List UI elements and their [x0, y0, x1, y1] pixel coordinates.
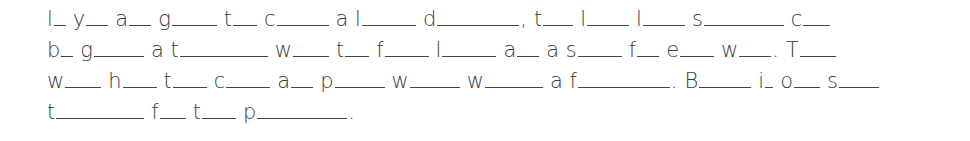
word-token: g	[158, 4, 217, 35]
blank-underline	[226, 86, 270, 88]
first-letter: i	[758, 66, 764, 97]
word-token: p	[320, 66, 384, 97]
word-token: t	[164, 66, 207, 97]
first-letter: t	[47, 97, 55, 128]
word-token: c	[264, 4, 329, 35]
first-letter: w	[392, 66, 409, 97]
blank-underline	[291, 86, 313, 88]
blank-underline	[739, 55, 771, 57]
word-token: p.	[243, 97, 355, 128]
article-text: a	[151, 35, 171, 66]
blank-underline	[362, 24, 416, 26]
fill-in-the-blank-puzzle: lyagtca ld,tllscbga twtflaa sfew.Twhtcap…	[47, 4, 886, 128]
blank-underline	[794, 86, 820, 88]
blank-underline	[54, 24, 66, 26]
blank-underline	[803, 24, 830, 26]
first-letter: b	[47, 35, 60, 66]
blank-underline	[173, 86, 207, 88]
word-token: l	[580, 4, 629, 35]
word-token: w	[467, 66, 543, 97]
first-letter: l	[355, 4, 361, 35]
first-letter: B	[685, 66, 699, 97]
first-letter: w	[721, 35, 738, 66]
word-token: t	[193, 97, 236, 128]
word-token: c	[791, 4, 831, 35]
word-token: t	[224, 4, 257, 35]
word-token: a s	[546, 35, 622, 66]
blank-underline	[233, 24, 257, 26]
first-letter: a	[277, 66, 290, 97]
word-token: s	[692, 4, 784, 35]
word-token: a t	[151, 35, 268, 66]
first-letter: c	[214, 66, 226, 97]
word-token: a	[503, 35, 539, 66]
blank-underline	[704, 24, 784, 26]
word-token: h	[108, 66, 156, 97]
blank-underline	[578, 86, 670, 88]
first-letter: w	[275, 35, 292, 66]
word-token: s	[827, 66, 879, 97]
word-token: f	[629, 35, 659, 66]
word-token: b	[47, 35, 73, 66]
blank-underline	[800, 55, 836, 57]
first-letter: l	[436, 35, 442, 66]
word-token: a	[115, 4, 151, 35]
blank-underline	[578, 55, 622, 57]
blank-underline	[765, 86, 773, 88]
blank-underline	[345, 55, 369, 57]
first-letter: s	[827, 66, 838, 97]
first-letter: t	[171, 35, 179, 66]
first-letter: T	[786, 35, 799, 66]
blank-underline	[437, 24, 519, 26]
first-letter: w	[467, 66, 484, 97]
blank-underline	[56, 117, 144, 119]
puzzle-line: whtcapwwa f.Bios	[47, 66, 886, 97]
word-token: t	[47, 97, 144, 128]
blank-underline	[335, 86, 385, 88]
blank-underline	[699, 86, 751, 88]
first-letter: a	[503, 35, 516, 66]
first-letter: o	[780, 66, 793, 97]
first-letter: e	[666, 35, 679, 66]
first-letter: t	[336, 35, 344, 66]
word-token: w	[392, 66, 460, 97]
punctuation: .	[348, 97, 355, 128]
first-letter: t	[164, 66, 172, 97]
first-letter: f	[376, 35, 383, 66]
first-letter: h	[108, 66, 121, 97]
blank-underline	[839, 86, 879, 88]
word-token: w.	[721, 35, 779, 66]
word-token: l	[47, 4, 66, 35]
word-token: a	[277, 66, 313, 97]
word-token: l	[436, 35, 497, 66]
word-token: t	[534, 4, 573, 35]
blank-underline	[257, 117, 347, 119]
first-letter: t	[193, 97, 201, 128]
first-letter: y	[73, 4, 85, 35]
first-letter: d	[423, 4, 436, 35]
blank-underline	[517, 55, 539, 57]
first-letter: a	[115, 4, 128, 35]
first-letter: s	[692, 4, 703, 35]
first-letter: f	[151, 97, 158, 128]
word-token: g	[80, 35, 144, 66]
first-letter: p	[320, 66, 333, 97]
first-letter: f	[569, 66, 576, 97]
word-token: f	[151, 97, 185, 128]
blank-underline	[442, 55, 496, 57]
word-token: c	[214, 66, 271, 97]
first-letter: l	[580, 4, 586, 35]
puzzle-line: bga twtflaa sfew.T	[47, 35, 886, 66]
blank-underline	[385, 55, 429, 57]
word-token: f	[376, 35, 428, 66]
word-token: w	[47, 66, 101, 97]
word-token: t	[336, 35, 369, 66]
blank-underline	[643, 24, 685, 26]
word-token: l	[636, 4, 685, 35]
word-token: a l	[336, 4, 416, 35]
first-letter: t	[534, 4, 542, 35]
punctuation: .	[772, 35, 779, 66]
blank-underline	[410, 86, 460, 88]
blank-underline	[485, 86, 543, 88]
article-text: a	[546, 35, 566, 66]
